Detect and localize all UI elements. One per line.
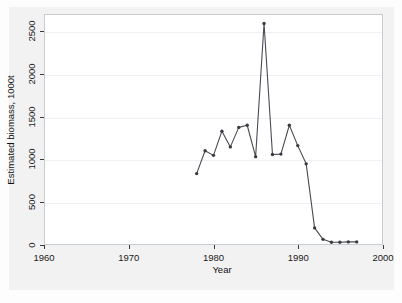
data-point-1979 — [203, 149, 206, 152]
x-tick-label-1970: 1970 — [118, 252, 139, 263]
y-axis-label: Estimated biomass, 1000t — [5, 75, 16, 184]
plot-area — [44, 14, 383, 245]
series-polyline — [197, 23, 357, 242]
series-line-estimated-biomass — [45, 15, 382, 244]
x-axis-label: Year — [212, 264, 231, 275]
data-point-1988 — [279, 152, 282, 155]
series-markers — [195, 22, 358, 244]
page-margin-right — [394, 0, 402, 303]
x-tick-mark-1980 — [214, 245, 215, 249]
x-tick-mark-1990 — [298, 245, 299, 249]
data-point-1991 — [304, 162, 307, 165]
data-point-1986 — [262, 22, 265, 25]
y-tick-label-1500: 1500 — [26, 106, 37, 127]
data-point-1985 — [254, 155, 257, 158]
data-point-1978 — [195, 172, 198, 175]
y-tick-label-1000: 1000 — [26, 149, 37, 170]
data-point-1982 — [229, 145, 232, 148]
x-tick-label-1980: 1980 — [203, 252, 224, 263]
data-point-1992 — [313, 226, 316, 229]
y-tick-label-2500: 2500 — [26, 21, 37, 42]
data-point-1989 — [288, 124, 291, 127]
data-point-1994 — [330, 241, 333, 244]
y-tick-label-500: 500 — [26, 194, 37, 210]
data-point-1981 — [220, 130, 223, 133]
x-tick-mark-1960 — [44, 245, 45, 249]
y-tick-label-0: 0 — [26, 242, 37, 247]
data-point-1993 — [321, 238, 324, 241]
x-tick-mark-1970 — [129, 245, 130, 249]
x-tick-mark-2000 — [383, 245, 384, 249]
chart-figure: Estimated biomass, 1000t 050010001500200… — [0, 0, 402, 303]
page-margin-top — [0, 0, 402, 7]
page-margin-bottom — [0, 290, 402, 303]
data-point-1990 — [296, 144, 299, 147]
data-point-1987 — [271, 153, 274, 156]
data-point-1996 — [347, 240, 350, 243]
data-point-1997 — [355, 240, 358, 243]
y-tick-label-2000: 2000 — [26, 63, 37, 84]
x-tick-label-2000: 2000 — [372, 252, 393, 263]
data-point-1983 — [237, 126, 240, 129]
data-point-1980 — [212, 154, 215, 157]
x-tick-label-1990: 1990 — [288, 252, 309, 263]
data-point-1984 — [246, 124, 249, 127]
x-tick-label-1960: 1960 — [33, 252, 54, 263]
data-point-1995 — [338, 241, 341, 244]
